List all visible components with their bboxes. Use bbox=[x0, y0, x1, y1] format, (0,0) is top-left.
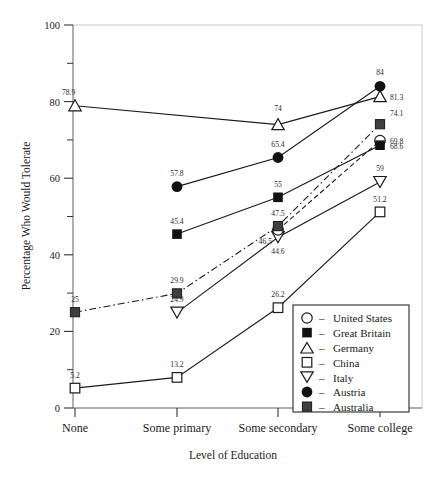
chart-svg: 100 80 60 40 20 0 Percentage Who Would T… bbox=[0, 0, 432, 483]
legend-label-italy: Italy bbox=[333, 372, 354, 384]
point-label-australia-some-secondary: 47.5 bbox=[271, 209, 284, 218]
point-label-germany-some-secondary: 74 bbox=[274, 104, 282, 113]
point-label-italy-some-primary: 24.9 bbox=[170, 295, 183, 304]
open-square-icon bbox=[302, 358, 312, 368]
filled-square-icon bbox=[302, 328, 312, 338]
point-label-italy-some-college: 59 bbox=[376, 164, 384, 173]
point-label-united-states-some-secondary: 46.5 bbox=[259, 237, 272, 246]
legend-dash-5: – bbox=[318, 386, 325, 398]
legend-label-austria: Austria bbox=[333, 386, 366, 398]
point-label-china-none: 5.2 bbox=[70, 371, 80, 380]
y-tick-label-20: 20 bbox=[50, 326, 61, 337]
filled-circle-icon bbox=[302, 387, 313, 398]
point-label-austria-some-college: 84 bbox=[376, 68, 384, 77]
y-axis-title: Percentage Who Would Tolerate bbox=[20, 142, 33, 291]
marker-austria-some-secondary bbox=[273, 152, 284, 163]
legend-label-germany: Germany bbox=[333, 342, 374, 354]
marker-china-some-primary bbox=[172, 373, 182, 383]
point-label-italy-some-secondary: 44.6 bbox=[271, 247, 284, 256]
legend-dash-6: – bbox=[318, 401, 325, 413]
legend-dash-1: – bbox=[318, 327, 325, 339]
point-label-australia-some-primary: 29.9 bbox=[170, 276, 183, 285]
point-label-germany-none: 78.9 bbox=[62, 88, 75, 97]
point-label-australia-some-college: 74.1 bbox=[390, 109, 403, 118]
point-label-austria-some-primary: 57.8 bbox=[170, 169, 183, 178]
x-tick-label-none: None bbox=[62, 421, 88, 435]
legend-dash-3: – bbox=[318, 357, 325, 369]
y-tick-label-60: 60 bbox=[50, 173, 61, 184]
point-label-austria-some-secondary: 65.4 bbox=[271, 140, 284, 149]
marker-australia-none bbox=[70, 308, 79, 317]
legend: – United States – Great Britain – German… bbox=[293, 305, 409, 413]
open-circle-icon bbox=[302, 313, 312, 323]
marker-china-some-secondary bbox=[273, 303, 283, 313]
legend-dash-4: – bbox=[318, 372, 325, 384]
marker-austria-some-primary bbox=[172, 181, 183, 192]
marker-australia-some-secondary bbox=[273, 222, 282, 231]
marker-australia-some-college bbox=[375, 120, 384, 129]
point-label-great-britain-some-secondary: 55 bbox=[274, 180, 282, 189]
point-label-china-some-primary: 13.2 bbox=[170, 360, 183, 369]
legend-label-china: China bbox=[333, 357, 359, 369]
point-label-china-some-college: 51.2 bbox=[373, 195, 386, 204]
point-label-united-states-some-college: 69.8 bbox=[390, 137, 403, 146]
y-tick-label-80: 80 bbox=[50, 97, 61, 108]
y-tick-label-0: 0 bbox=[55, 403, 60, 414]
marker-great-britain-some-primary bbox=[172, 229, 182, 239]
point-label-australia-none: 25 bbox=[71, 295, 79, 304]
x-tick-label-some-secondary: Some secondary bbox=[239, 421, 318, 435]
legend-dash-0: – bbox=[318, 312, 325, 324]
x-axis-title: Level of Education bbox=[189, 449, 277, 461]
marker-china-some-college bbox=[375, 207, 385, 217]
marker-austria-some-college bbox=[375, 81, 386, 92]
x-tick-label-some-college: Some college bbox=[348, 421, 413, 435]
legend-label-great-britain: Great Britain bbox=[333, 327, 391, 339]
point-label-great-britain-some-primary: 45.4 bbox=[170, 217, 183, 226]
marker-great-britain-some-college bbox=[375, 140, 385, 150]
marker-china-none bbox=[70, 383, 80, 393]
legend-label-united-states: United States bbox=[333, 312, 392, 324]
legend-label-australia: Australia bbox=[333, 401, 373, 413]
marker-great-britain-some-secondary bbox=[273, 193, 283, 203]
chart-figure: 100 80 60 40 20 0 Percentage Who Would T… bbox=[0, 0, 432, 483]
y-tick-label-100: 100 bbox=[44, 20, 60, 31]
y-tick-label-40: 40 bbox=[50, 250, 61, 261]
legend-dash-2: – bbox=[318, 342, 325, 354]
gray-square-icon bbox=[302, 402, 311, 411]
point-label-china-some-secondary: 26.2 bbox=[271, 290, 284, 299]
point-label-germany-some-college: 81.3 bbox=[390, 93, 403, 102]
x-tick-label-some-primary: Some primary bbox=[143, 421, 211, 435]
